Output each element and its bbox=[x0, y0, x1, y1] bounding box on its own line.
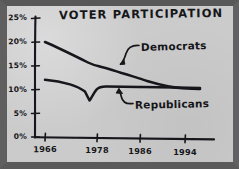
y-axis-line bbox=[35, 17, 36, 138]
y-axis-label-15: 15% bbox=[5, 62, 27, 70]
y-axis-label-20: 20% bbox=[5, 38, 27, 46]
republicans-arrowhead bbox=[116, 89, 123, 94]
y-axis-label-25: 25% bbox=[5, 14, 27, 22]
x-axis-label-1994: 1994 bbox=[170, 148, 200, 156]
x-axis-line bbox=[35, 137, 215, 139]
series-label-democrats: Democrats bbox=[141, 40, 207, 52]
chart-image: VOTER PARTICIPATION 25% 20% 15% 10% 5% 0… bbox=[0, 0, 239, 169]
x-axis-label-1966: 1966 bbox=[30, 145, 60, 154]
y-axis-label-0: 0% bbox=[5, 133, 27, 141]
series-label-republicans: Republicans bbox=[135, 98, 209, 110]
x-axis-label-1986: 1986 bbox=[125, 147, 155, 156]
y-axis-label-10: 10% bbox=[5, 86, 27, 94]
chart-title: VOTER PARTICIPATION bbox=[59, 8, 223, 22]
x-axis-label-1978: 1978 bbox=[82, 146, 112, 154]
y-axis-label-5: 5% bbox=[5, 109, 27, 117]
